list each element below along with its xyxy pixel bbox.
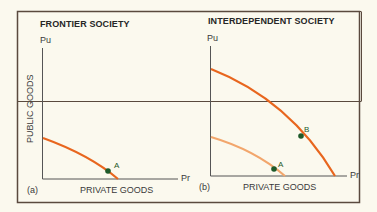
panel-b-curve-outer xyxy=(211,69,335,176)
panel-b-label: (b) xyxy=(199,182,210,192)
panel-a-x-axis-title: PRIVATE GOODS xyxy=(80,185,153,195)
panel-b-title: INTERDEPENDENT SOCIETY xyxy=(208,16,335,26)
panel-b-point-b-label: B xyxy=(304,125,309,134)
panel-b-point-a xyxy=(271,166,277,172)
panel-b-point-b xyxy=(298,133,304,139)
panel-a-point-a-label: A xyxy=(114,161,119,170)
panel-a-point-a xyxy=(105,168,111,174)
panel-a-label: (a) xyxy=(27,185,38,195)
panel-b-point-a-label: A xyxy=(278,160,283,169)
panel-a-y-end-label: Pu xyxy=(40,35,51,45)
panel-a-title: FRONTIER SOCIETY xyxy=(40,19,130,29)
panel-a-x-end-label: Pr xyxy=(181,173,190,183)
panel-a-y-axis-title: PUBLIC GOODS xyxy=(25,74,35,143)
panel-b-y-end-label: Pu xyxy=(207,33,218,43)
panel-b-x-axis-title: PRIVATE GOODS xyxy=(243,182,316,192)
panel-b-x-end-label: Pr xyxy=(350,170,359,180)
